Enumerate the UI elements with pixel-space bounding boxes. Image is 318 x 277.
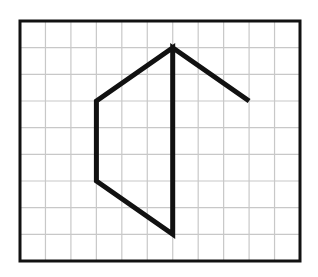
grid-diagram [0, 0, 318, 277]
drawn-polyline [96, 48, 249, 235]
